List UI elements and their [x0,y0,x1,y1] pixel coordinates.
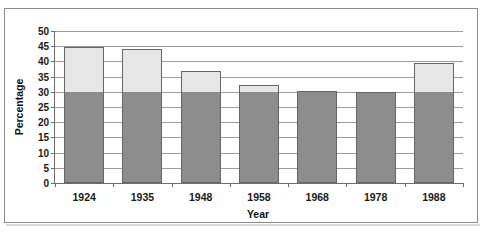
x-tick-label: 1958 [247,191,270,203]
x-tick-label: 1948 [189,191,212,203]
y-axis-title-label: Percentage [13,79,25,136]
x-tick-label: 1935 [131,191,154,203]
bar-segment-lower-segment[interactable] [64,92,104,183]
y-tick-label: 5 [43,162,49,173]
bar-segment-upper-segment[interactable] [239,85,279,92]
x-tick-mark [113,183,114,187]
plot-area: 05101520253035404550 1924193519481958196… [54,31,463,184]
x-tick-label: 1968 [306,191,329,203]
y-tick-label: 20 [38,117,49,128]
y-tick-label: 35 [38,71,49,82]
bar-group[interactable] [64,31,104,183]
x-tick-label: 1924 [72,191,95,203]
x-tick-mark [55,183,56,187]
bar-segment-lower-segment[interactable] [239,92,279,183]
y-tick-label: 45 [38,41,49,52]
bar-group[interactable] [297,31,337,183]
bar-group[interactable] [239,31,279,183]
y-tick-label: 50 [38,26,49,37]
bars-layer [55,31,463,183]
y-tick-label: 15 [38,132,49,143]
bar-segment-upper-segment[interactable] [122,49,162,92]
y-tick-label: 25 [38,102,49,113]
bar-stack[interactable] [297,91,337,183]
x-axis-title: Year [54,208,462,220]
bar-segment-lower-segment[interactable] [297,91,337,183]
bar-segment-upper-segment[interactable] [64,47,104,92]
bar-stack[interactable] [239,85,279,183]
bar-segment-lower-segment[interactable] [414,92,454,183]
y-axis-title: Percentage [12,31,26,183]
bar-stack[interactable] [414,63,454,183]
bar-segment-lower-segment[interactable] [181,92,221,183]
y-tick-label: 10 [38,147,49,158]
x-tick-mark [230,183,231,187]
bar-segment-lower-segment[interactable] [122,92,162,183]
bar-group[interactable] [122,31,162,183]
x-tick-mark [172,183,173,187]
bar-segment-upper-segment[interactable] [181,71,221,92]
bar-group[interactable] [414,31,454,183]
bar-segment-upper-segment[interactable] [414,63,454,92]
bar-group[interactable] [181,31,221,183]
x-tick-mark [346,183,347,187]
chart-figure: Percentage 05101520253035404550 19241935… [0,0,487,236]
bar-stack[interactable] [356,92,396,183]
x-tick-mark [405,183,406,187]
y-tick-label: 40 [38,56,49,67]
bar-group[interactable] [356,31,396,183]
x-tick-mark [288,183,289,187]
x-tick-label: 1978 [364,191,387,203]
top-edge-text-remnant [14,0,134,5]
bar-stack[interactable] [64,47,104,183]
x-tick-mark [463,183,464,187]
frame-shadow [6,224,480,226]
bar-stack[interactable] [122,49,162,183]
x-tick-label: 1988 [422,191,445,203]
y-tick-label: 0 [43,178,49,189]
bar-stack[interactable] [181,71,221,183]
bar-segment-lower-segment[interactable] [356,92,396,183]
y-tick-label: 30 [38,86,49,97]
